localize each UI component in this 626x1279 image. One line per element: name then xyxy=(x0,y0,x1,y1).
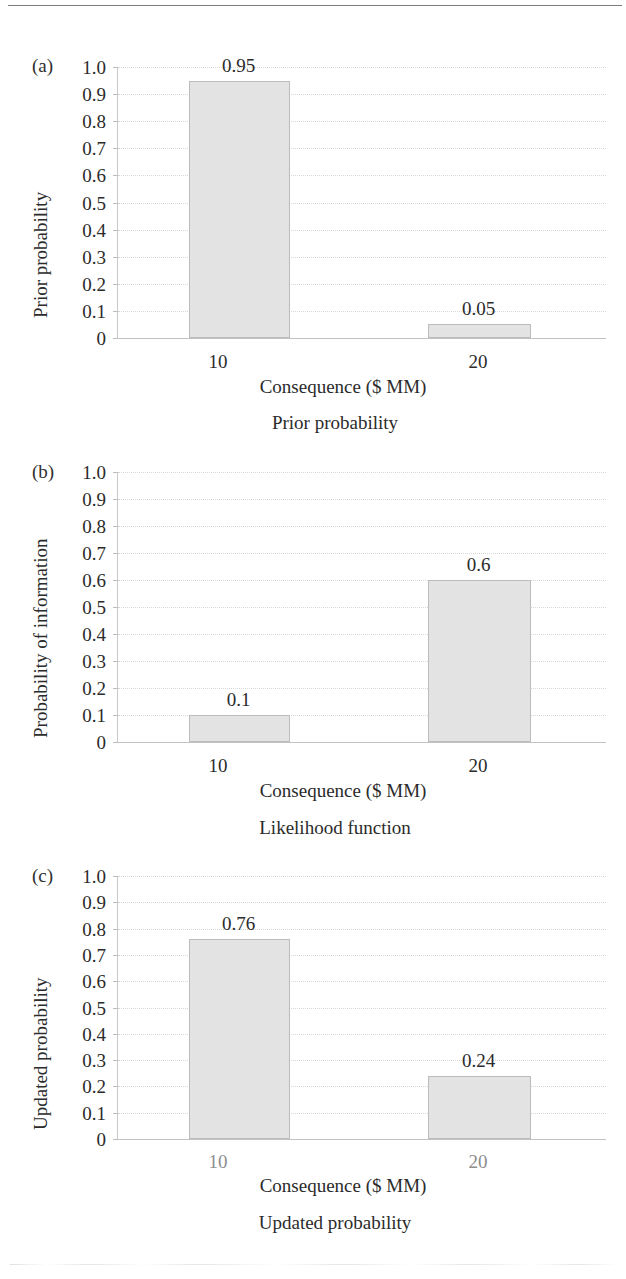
gridline xyxy=(118,553,606,554)
y-tick-mark xyxy=(113,553,118,554)
y-tick-label: 0.7 xyxy=(58,945,106,964)
x-axis-title: Consequence ($ MM) xyxy=(0,781,626,800)
gridline xyxy=(118,902,606,903)
y-tick-mark xyxy=(113,1008,118,1009)
y-tick-label: 0.9 xyxy=(58,893,106,912)
bar-value-label: 0.1 xyxy=(188,690,289,709)
y-tick-mark xyxy=(113,338,118,339)
y-tick-label: 0.6 xyxy=(58,972,106,991)
gridline xyxy=(118,876,606,877)
bar xyxy=(189,939,290,1139)
x-axis-title: Consequence ($ MM) xyxy=(0,1176,626,1195)
y-tick-mark xyxy=(113,876,118,877)
y-tick-label: 0.9 xyxy=(58,85,106,104)
y-axis-title: Updated probability xyxy=(30,978,52,1131)
y-tick-mark xyxy=(113,688,118,689)
y-tick-mark xyxy=(113,607,118,608)
y-tick-mark xyxy=(113,257,118,258)
y-tick-mark xyxy=(113,472,118,473)
y-tick-mark xyxy=(113,148,118,149)
y-tick-label: 0.6 xyxy=(58,166,106,185)
y-tick-label: 0.8 xyxy=(58,517,106,536)
gridline xyxy=(118,688,606,689)
y-tick-label: 1.0 xyxy=(58,463,106,482)
y-tick-label: 0.2 xyxy=(58,679,106,698)
y-tick-mark xyxy=(113,121,118,122)
x-tick-label: 20 xyxy=(438,756,518,775)
y-tick-mark xyxy=(113,311,118,312)
y-tick-mark xyxy=(113,175,118,176)
x-tick-label: 10 xyxy=(178,1152,258,1171)
y-tick-mark xyxy=(113,499,118,500)
y-tick-mark xyxy=(113,203,118,204)
x-axis-baseline xyxy=(118,338,606,339)
y-tick-mark xyxy=(113,1034,118,1035)
y-tick-mark xyxy=(113,715,118,716)
y-tick-mark xyxy=(113,1086,118,1087)
y-tick-label: 0.1 xyxy=(58,706,106,725)
y-tick-mark xyxy=(113,902,118,903)
y-tick-mark xyxy=(113,94,118,95)
gridline xyxy=(118,499,606,500)
bar xyxy=(428,580,531,742)
y-tick-mark xyxy=(113,981,118,982)
y-tick-label: 0.5 xyxy=(58,193,106,212)
bar-value-label: 0.24 xyxy=(427,1051,530,1070)
y-axis-title: Prior probability xyxy=(30,192,52,318)
y-tick-mark xyxy=(113,284,118,285)
bar xyxy=(189,715,290,742)
bar xyxy=(428,324,531,338)
panel-caption: Updated probability xyxy=(0,1213,626,1232)
y-tick-mark xyxy=(113,929,118,930)
panel-tag: (c) xyxy=(32,866,53,885)
gridline xyxy=(118,526,606,527)
y-tick-label: 0.4 xyxy=(58,1024,106,1043)
gridline xyxy=(118,661,606,662)
x-axis-baseline xyxy=(118,742,606,743)
y-tick-label: 0 xyxy=(58,1130,106,1149)
y-tick-mark xyxy=(113,580,118,581)
y-tick-mark xyxy=(113,526,118,527)
y-tick-label: 0.3 xyxy=(58,652,106,671)
y-tick-label: 1.0 xyxy=(58,867,106,886)
y-tick-mark xyxy=(113,1060,118,1061)
gridline xyxy=(118,472,606,473)
panel-tag: (a) xyxy=(32,56,53,75)
gridline xyxy=(118,607,606,608)
gridline xyxy=(118,634,606,635)
y-tick-mark xyxy=(113,634,118,635)
y-tick-label: 0.3 xyxy=(58,1051,106,1070)
panel-caption: Likelihood function xyxy=(0,818,626,837)
y-tick-label: 0 xyxy=(58,329,106,348)
x-tick-label: 10 xyxy=(178,756,258,775)
scan-artifact-top-line xyxy=(8,5,622,6)
y-tick-label: 0.8 xyxy=(58,919,106,938)
y-tick-label: 0.2 xyxy=(58,1077,106,1096)
x-tick-label: 20 xyxy=(438,1152,518,1171)
y-tick-mark xyxy=(113,67,118,68)
y-tick-label: 1.0 xyxy=(58,58,106,77)
bar-value-label: 0.76 xyxy=(188,914,289,933)
y-tick-label: 0.1 xyxy=(58,1103,106,1122)
y-tick-label: 0.7 xyxy=(58,139,106,158)
panel-caption: Prior probability xyxy=(0,413,626,432)
y-tick-label: 0.3 xyxy=(58,247,106,266)
plot-area xyxy=(117,67,606,338)
y-tick-label: 0.5 xyxy=(58,998,106,1017)
y-tick-label: 0.4 xyxy=(58,220,106,239)
y-tick-mark xyxy=(113,661,118,662)
panel-tag: (b) xyxy=(32,462,54,481)
bar-value-label: 0.95 xyxy=(188,56,289,75)
y-tick-label: 0.9 xyxy=(58,490,106,509)
bar-value-label: 0.05 xyxy=(427,299,530,318)
scan-artifact-bottom-noise xyxy=(10,1264,616,1265)
y-tick-mark xyxy=(113,1113,118,1114)
y-axis-title: Probability of information xyxy=(30,539,52,738)
y-tick-label: 0.7 xyxy=(58,544,106,563)
x-axis-title: Consequence ($ MM) xyxy=(0,377,626,396)
x-tick-label: 10 xyxy=(178,352,258,371)
y-tick-label: 0.2 xyxy=(58,274,106,293)
y-tick-label: 0.8 xyxy=(58,112,106,131)
y-tick-label: 0 xyxy=(58,733,106,752)
bar xyxy=(189,81,290,338)
